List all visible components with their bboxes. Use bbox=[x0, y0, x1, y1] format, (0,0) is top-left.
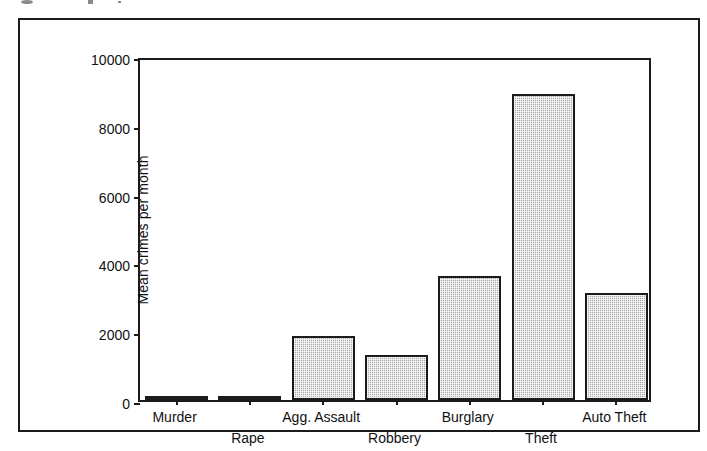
y-axis-tick-mark bbox=[134, 59, 140, 61]
x-axis-tick-label: Robbery bbox=[325, 431, 465, 445]
bar bbox=[512, 94, 575, 400]
figure-frame: Mean crimes per month 020004000600080001… bbox=[18, 18, 700, 432]
x-axis-tick-mark bbox=[469, 400, 471, 405]
x-axis-tick-label: Auto Theft bbox=[544, 410, 684, 424]
x-axis-tick-mark bbox=[322, 400, 324, 405]
y-axis-tick-label: 0 bbox=[84, 397, 130, 411]
scanned-page: Mean crimes per month 020004000600080001… bbox=[0, 0, 707, 451]
x-axis-tick-mark bbox=[249, 400, 251, 405]
y-axis-tick-label: 6000 bbox=[84, 191, 130, 205]
plot-area: Mean crimes per month 020004000600080001… bbox=[138, 58, 651, 402]
y-axis-tick-label: 10000 bbox=[84, 53, 130, 67]
scan-artifact-speck bbox=[88, 0, 93, 4]
y-axis-tick-mark bbox=[134, 403, 140, 405]
y-axis-tick-mark bbox=[134, 197, 140, 199]
bar bbox=[438, 276, 501, 400]
x-axis-tick-label: Murder bbox=[105, 410, 245, 424]
y-axis-tick-label: 4000 bbox=[84, 259, 130, 273]
bar bbox=[365, 355, 428, 400]
x-axis-tick-label: Burglary bbox=[398, 410, 538, 424]
y-axis-title: Mean crimes per month bbox=[135, 15, 151, 445]
x-axis-tick-mark bbox=[542, 400, 544, 405]
bar bbox=[292, 336, 355, 400]
scan-artifact-speck bbox=[21, 0, 33, 4]
x-axis-tick-label: Agg. Assault bbox=[251, 410, 391, 424]
x-axis-tick-mark bbox=[396, 400, 398, 405]
scan-artifact-speck bbox=[118, 1, 121, 3]
y-axis-tick-mark bbox=[134, 334, 140, 336]
y-axis-tick-mark bbox=[134, 128, 140, 130]
bar bbox=[585, 293, 648, 400]
x-axis-tick-label: Theft bbox=[471, 431, 611, 445]
x-axis-tick-mark bbox=[615, 400, 617, 405]
y-axis-tick-label: 2000 bbox=[84, 328, 130, 342]
y-axis-tick-label: 8000 bbox=[84, 122, 130, 136]
y-axis-tick-mark bbox=[134, 265, 140, 267]
x-axis-tick-mark bbox=[176, 400, 178, 405]
x-axis-tick-label: Rape bbox=[178, 431, 318, 445]
